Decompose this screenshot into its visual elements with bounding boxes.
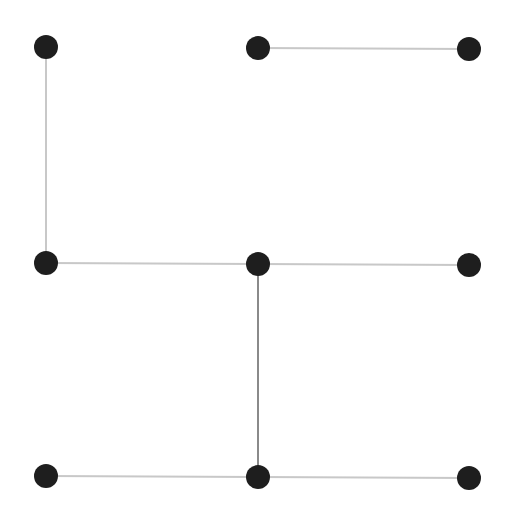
node-n6 xyxy=(34,464,58,488)
node-n7 xyxy=(246,465,270,489)
edge-n7-n8 xyxy=(258,477,469,478)
edge-n1-n2 xyxy=(258,48,469,49)
edge-n4-n5 xyxy=(258,264,469,265)
node-n8 xyxy=(457,466,481,490)
node-n4 xyxy=(246,252,270,276)
edge-n6-n7 xyxy=(46,476,258,477)
node-n0 xyxy=(34,35,58,59)
node-n2 xyxy=(457,37,481,61)
node-n5 xyxy=(457,253,481,277)
node-n3 xyxy=(34,251,58,275)
graph-canvas xyxy=(0,0,512,519)
graph-diagram xyxy=(0,0,512,519)
edge-n3-n4 xyxy=(46,263,258,264)
node-n1 xyxy=(246,36,270,60)
